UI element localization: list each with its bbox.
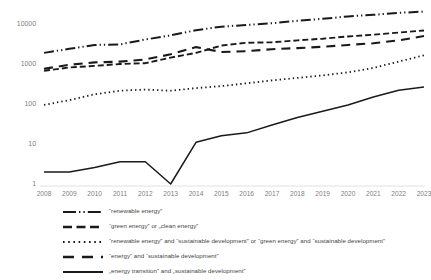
legend-item-green-clean-energy: “green energy” or „clean energy”: [0, 219, 431, 234]
x-axis-tick-label: 2008: [37, 190, 52, 197]
x-axis-tick-label: 2019: [315, 190, 330, 197]
series-line-0: [44, 12, 424, 53]
x-axis-tick-label: 2020: [341, 190, 356, 197]
series-line-2: [44, 55, 424, 105]
legend-label-energy-transition: „energy transition” and „sustainable dev…: [109, 268, 246, 274]
series-line-4: [44, 87, 424, 184]
x-axis-tick-label: 2012: [138, 190, 153, 197]
x-axis-ticks: 2008200920102011201220132014201520162017…: [37, 190, 431, 197]
legend-key-dotted-icon: [62, 236, 104, 248]
legend-item-energy-sustainable: “energy” and “sustainable development”: [0, 249, 431, 264]
series-line-3: [44, 36, 424, 69]
data-series-group: [44, 12, 424, 184]
legend-key-long-dash-icon: [62, 251, 104, 263]
legend-label-renewable-sustainable: “renewable energy” and “sustainable deve…: [109, 238, 385, 244]
legend-key-dash-dot-dot-icon: [62, 206, 104, 218]
series-line-1: [44, 30, 424, 70]
y-axis-tick-label: 10000: [17, 20, 36, 27]
legend-key-dashed-icon: [62, 221, 104, 233]
legend-key-solid-icon: [62, 266, 104, 278]
y-axis-tick-label: 1000: [21, 60, 36, 67]
x-axis-tick-label: 2017: [265, 190, 280, 197]
y-axis-tick-label: 10: [28, 140, 36, 147]
line-chart-plot: 110100100010000 200820092010201120122013…: [0, 0, 431, 200]
legend-label-energy-sustainable: “energy” and “sustainable development”: [109, 253, 219, 259]
x-axis-tick-label: 2011: [113, 190, 128, 197]
x-axis-tick-label: 2022: [391, 190, 406, 197]
y-axis-tick-label: 100: [25, 100, 37, 107]
legend-item-energy-transition: „energy transition” and „sustainable dev…: [0, 264, 431, 279]
y-axis-tick-label: 1: [32, 180, 36, 187]
chart-legend: “renewable energy” “green energy” or „cl…: [0, 204, 431, 280]
x-axis-tick-label: 2013: [163, 190, 178, 197]
x-axis-tick-label: 2018: [290, 190, 305, 197]
x-axis-tick-label: 2021: [366, 190, 381, 197]
x-axis-tick-label: 2015: [214, 190, 229, 197]
legend-item-renewable-sustainable: “renewable energy” and “sustainable deve…: [0, 234, 431, 249]
x-axis-tick-label: 2010: [87, 190, 102, 197]
legend-item-renewable-energy: “renewable energy”: [0, 204, 431, 219]
x-axis-tick-label: 2009: [62, 190, 77, 197]
legend-label-green-clean-energy: “green energy” or „clean energy”: [109, 223, 198, 229]
chart-container: 110100100010000 200820092010201120122013…: [0, 0, 431, 280]
legend-label-renewable-energy: “renewable energy”: [109, 208, 162, 214]
y-axis-ticks: 110100100010000: [17, 20, 36, 187]
x-axis-tick-label: 2014: [189, 190, 204, 197]
x-axis-tick-label: 2023: [417, 190, 431, 197]
x-axis-tick-label: 2016: [239, 190, 254, 197]
